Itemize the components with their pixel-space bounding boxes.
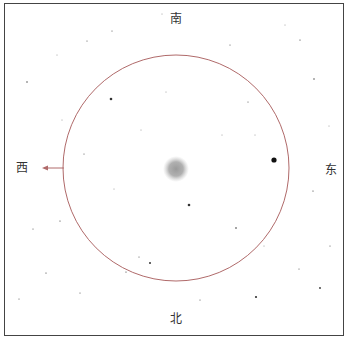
star [271,157,276,162]
star [312,190,313,191]
star [125,271,126,272]
star [59,220,60,221]
star [313,78,314,79]
star [19,299,20,300]
star [200,300,201,301]
star [26,81,27,82]
direction-label-west: 西 [16,161,28,175]
star [166,92,167,93]
star [110,98,113,101]
star [87,41,88,42]
star [248,102,249,103]
star [235,227,237,229]
star [80,293,81,294]
star [299,269,300,270]
star [141,130,142,131]
star [330,246,331,247]
star [329,126,330,127]
star-chart [0,0,350,340]
star [114,189,115,190]
star [112,31,113,32]
star [149,262,151,264]
west-arrow-icon [42,166,64,171]
star [84,154,85,155]
star [188,204,191,207]
star [285,25,286,26]
star [255,296,257,298]
star [299,39,300,40]
nebula-blob [163,156,189,182]
star [222,135,223,136]
direction-label-east: 东 [325,163,337,177]
star [139,257,140,258]
direction-label-north: 北 [170,312,182,326]
star [57,55,58,56]
direction-label-south: 南 [170,12,182,26]
star [230,45,231,46]
star [319,287,321,289]
star [255,135,256,136]
star [264,246,265,247]
star [62,120,63,121]
star [33,229,34,230]
star [162,14,163,15]
star [45,272,46,273]
